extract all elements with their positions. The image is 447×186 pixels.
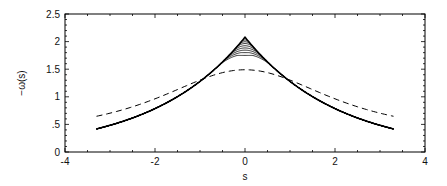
solid-curve bbox=[97, 40, 394, 129]
chart: -4-2024 0.511.522.5 s −ω(s) bbox=[0, 0, 447, 186]
x-tick-label: 2 bbox=[332, 156, 338, 167]
y-axis-tick-labels: 0.511.522.5 bbox=[46, 9, 60, 158]
y-tick-label: 0 bbox=[54, 147, 60, 158]
solid-curve bbox=[97, 42, 394, 129]
x-axis-ticks bbox=[65, 14, 425, 152]
solid-curve bbox=[97, 46, 394, 129]
y-axis-label: −ω(s) bbox=[16, 70, 27, 95]
x-tick-label: 4 bbox=[422, 156, 428, 167]
solid-curve bbox=[97, 44, 394, 129]
y-tick-label: 2 bbox=[54, 36, 60, 47]
y-tick-label: 1 bbox=[54, 91, 60, 102]
solid-curve-sharp bbox=[97, 37, 394, 129]
x-axis-label: s bbox=[243, 171, 248, 182]
solid-curve bbox=[97, 50, 394, 129]
y-axis-ticks bbox=[65, 14, 425, 152]
y-tick-label: 2.5 bbox=[46, 9, 60, 20]
plot-frame bbox=[65, 14, 425, 152]
x-tick-label: 0 bbox=[242, 156, 248, 167]
solid-curve bbox=[97, 48, 394, 129]
series-layer bbox=[97, 37, 394, 129]
x-tick-label: -2 bbox=[151, 156, 160, 167]
x-tick-label: -4 bbox=[61, 156, 70, 167]
dashed-curve bbox=[97, 70, 394, 117]
y-tick-label: 1.5 bbox=[46, 64, 60, 75]
solid-curve bbox=[97, 53, 394, 129]
solid-curve bbox=[97, 55, 394, 129]
x-axis-tick-labels: -4-2024 bbox=[61, 156, 429, 167]
y-tick-label: .5 bbox=[52, 119, 61, 130]
